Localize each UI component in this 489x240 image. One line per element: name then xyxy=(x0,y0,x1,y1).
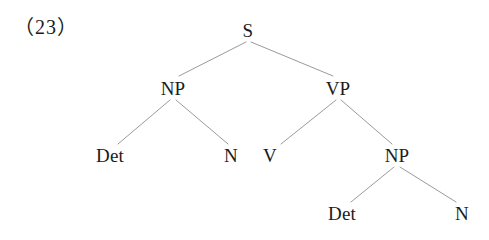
tree-edge-np2-det2 xyxy=(351,167,394,202)
tree-node-np1: NP xyxy=(161,79,186,98)
tree-edge-s-vp xyxy=(251,42,333,76)
tree-node-s: S xyxy=(243,21,254,40)
syntax-tree-figure: （23） SNPVPDetNVNPDetN xyxy=(0,0,489,240)
tree-node-n2: N xyxy=(455,204,469,223)
tree-node-det1: Det xyxy=(96,146,124,165)
tree-node-vp: VP xyxy=(326,79,351,98)
tree-node-n1: N xyxy=(224,146,238,165)
tree-node-v: V xyxy=(263,146,277,165)
tree-edge-np1-n1 xyxy=(176,100,228,144)
tree-edge-np2-n2 xyxy=(400,167,456,202)
tree-edge-s-np1 xyxy=(179,42,246,76)
tree-edge-vp-v xyxy=(281,100,336,144)
tree-edge-np1-det1 xyxy=(118,100,170,144)
tree-node-det2: Det xyxy=(328,204,356,223)
tree-edge-vp-np2 xyxy=(341,100,392,144)
tree-node-np2: NP xyxy=(385,146,410,165)
